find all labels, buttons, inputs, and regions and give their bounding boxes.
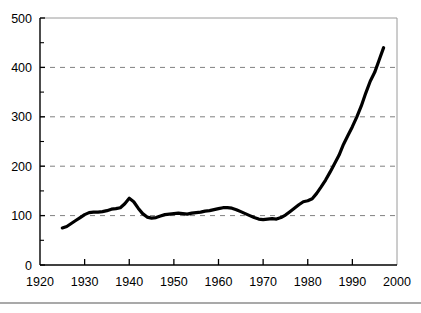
y-tick-label-300: 300 [11, 110, 32, 124]
y-tick-label-500: 500 [11, 12, 32, 26]
chart-figure: 0100200300400500 19201930194019501960197… [0, 0, 421, 313]
x-tick-label-1940: 1940 [115, 275, 143, 289]
y-tick-label-200: 200 [11, 160, 32, 174]
x-tick-labels: 192019301940195019601970198019902000 [26, 275, 411, 289]
x-tick-label-1930: 1930 [71, 275, 99, 289]
y-tick-label-400: 400 [11, 61, 32, 75]
y-tick-label-0: 0 [25, 259, 32, 273]
chart-background [0, 0, 421, 313]
x-tick-label-1920: 1920 [26, 275, 54, 289]
x-tick-label-1950: 1950 [160, 275, 188, 289]
x-tick-label-1980: 1980 [294, 275, 322, 289]
x-tick-label-1990: 1990 [338, 275, 366, 289]
y-tick-label-100: 100 [11, 209, 32, 223]
x-tick-label-1970: 1970 [249, 275, 277, 289]
line-chart: 0100200300400500 19201930194019501960197… [0, 0, 421, 313]
x-tick-label-2000: 2000 [383, 275, 411, 289]
x-tick-label-1960: 1960 [205, 275, 233, 289]
